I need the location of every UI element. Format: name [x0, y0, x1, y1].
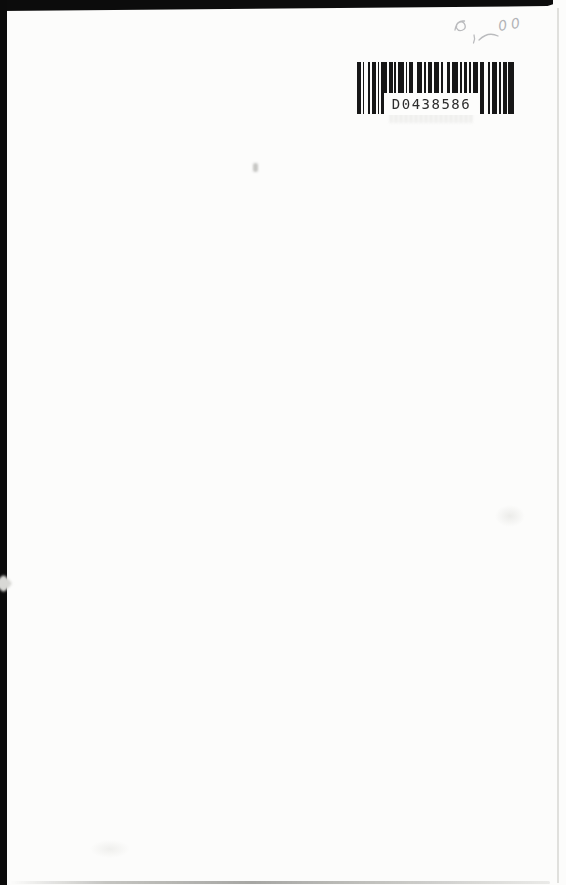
- faint-smudge: [90, 840, 130, 858]
- scan-border-left: [0, 0, 7, 885]
- barcode: D0438586: [357, 62, 514, 112]
- barcode-label-band: D0438586: [384, 93, 479, 115]
- page-bottom-edge: [10, 881, 550, 884]
- pencil-price-note: 00: [440, 8, 560, 58]
- page-right-edge: [557, 8, 559, 883]
- scanned-page: 00 D0438586: [0, 0, 566, 885]
- ink-speck: [253, 163, 258, 172]
- barcode-text: D0438586: [392, 96, 471, 113]
- faint-smudge: [495, 505, 525, 527]
